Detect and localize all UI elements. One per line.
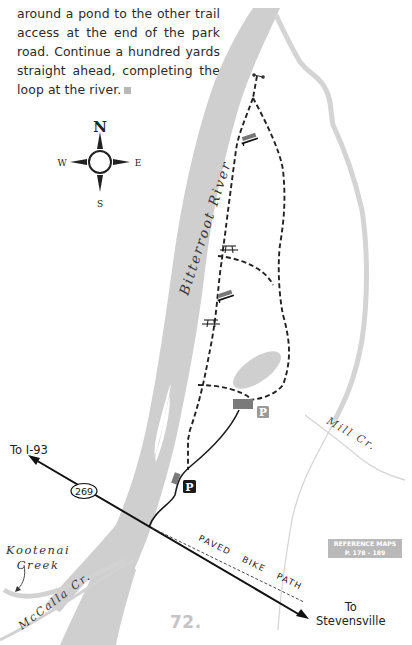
to-stevensville-label: To Stevensville [316,600,386,628]
to-i93-label: To I-93 [10,443,48,457]
reference-maps-badge: REFERENCE MAPS P. 178 - 189 [328,539,402,558]
to-stevensville-line2: Stevensville [316,614,386,628]
compass-north-label: N [93,118,107,136]
compass-south-label: S [97,199,103,209]
compass-east-label: E [135,158,142,168]
to-stevensville-line1: To [316,600,386,614]
hike-number: 72. [170,612,202,632]
parking-lot-upper [233,399,253,409]
reference-maps-title: REFERENCE MAPS [328,540,402,549]
svg-text:P: P [185,481,193,494]
bench-icon [240,133,259,147]
parking-sign-dark: P [183,480,196,494]
reference-maps-pages: P. 178 - 189 [328,549,402,558]
compass-rose: N W E S [57,118,141,209]
mill-creek-label: Mill Cr. [324,414,379,453]
pond [227,344,287,396]
picnic-table-icon [202,320,220,327]
kootenai-line2: Creek [6,558,70,573]
thin-creek [278,420,335,630]
highway-269-shield: 269 [71,484,97,499]
svg-text:269: 269 [75,486,93,497]
bench-icon [216,290,235,304]
trailhead-marker [253,74,264,78]
svg-text:P: P [259,406,267,418]
kootenai-creek-label: Kootenai Creek [6,543,70,573]
compass-west-label: W [57,158,67,168]
arrow-to-stevensville [296,609,309,619]
bitterroot-river [60,8,280,645]
parking-sign-light: P [257,406,269,418]
kootenai-line1: Kootenai [6,543,70,558]
guidebook-page: around a pond to the other trail access … [0,0,412,645]
